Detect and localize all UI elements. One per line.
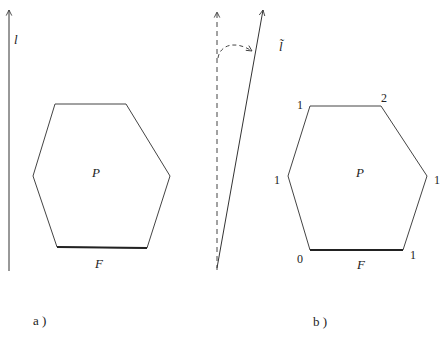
face-label-f-b: F — [356, 257, 366, 272]
face-f-edge-a — [57, 247, 147, 248]
rotation-curved-arrow — [218, 45, 252, 58]
vertex-label-top-right: 2 — [381, 91, 387, 105]
vertex-label-mid-left: 1 — [274, 173, 280, 187]
axis-label-l: l — [14, 32, 18, 47]
vertex-label-top-left: 1 — [297, 98, 303, 112]
polygon-label-p-b: P — [355, 165, 364, 180]
face-label-f-a: F — [94, 256, 104, 271]
polygon-label-p-a: P — [91, 165, 100, 180]
vertex-label-bottom-right: 1 — [410, 248, 416, 262]
polygon-p-a — [33, 104, 170, 248]
caption-b: b ) — [313, 314, 327, 329]
panel-a: l P F a ) — [9, 10, 170, 328]
tilted-axis-arrow — [217, 10, 263, 268]
diagram-canvas: l P F a ) l̃ 1 2 1 1 0 1 P F b ) — [0, 0, 446, 337]
vertex-label-mid-right: 1 — [434, 173, 440, 187]
vertex-label-bottom-left: 0 — [297, 252, 303, 266]
caption-a: a ) — [33, 313, 46, 328]
axis-label-l-tilde: l̃ — [279, 39, 285, 54]
panel-b: l̃ 1 2 1 1 0 1 P F b ) — [217, 10, 440, 329]
